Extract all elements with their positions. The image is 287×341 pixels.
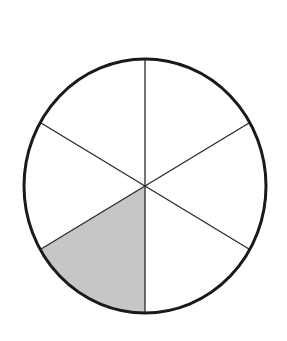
- fraction-circle-figure: [0, 0, 287, 341]
